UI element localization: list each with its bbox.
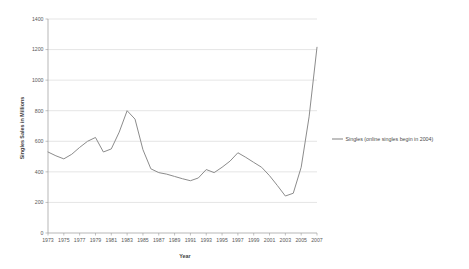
x-tick-label-1975: 1975 bbox=[58, 237, 70, 243]
x-tick-label-1999: 1999 bbox=[248, 237, 260, 243]
x-tick-label-1991: 1991 bbox=[185, 237, 197, 243]
x-axis-title: Year bbox=[179, 253, 191, 259]
legend-label-0: Singles (online singles begin in 2004) bbox=[346, 136, 434, 142]
x-tick-label-2005: 2005 bbox=[295, 237, 307, 243]
x-tick-label-2001: 2001 bbox=[264, 237, 276, 243]
gridlines-group bbox=[48, 19, 317, 202]
y-tick-label-0: 0 bbox=[41, 230, 44, 236]
line-chart: 0200400600800100012001400 19731975197719… bbox=[0, 0, 469, 269]
x-tick-label-1983: 1983 bbox=[121, 237, 133, 243]
legend: Singles (online singles begin in 2004) bbox=[332, 136, 433, 142]
y-tick-label-1000: 1000 bbox=[32, 77, 44, 83]
y-tick-label-1200: 1200 bbox=[32, 46, 44, 52]
y-tick-label-400: 400 bbox=[35, 169, 44, 175]
x-tick-label-1985: 1985 bbox=[137, 237, 149, 243]
x-tick-label-1987: 1987 bbox=[153, 237, 165, 243]
y-axis-title: Singles Sales in Millions bbox=[19, 97, 25, 160]
y-tick-label-200: 200 bbox=[35, 199, 44, 205]
chart-container: 0200400600800100012001400 19731975197719… bbox=[0, 0, 469, 269]
x-axis-ticks-group: 1973197519771979198119831985198719891991… bbox=[42, 233, 323, 243]
data-series-group bbox=[48, 47, 317, 196]
x-tick-label-1979: 1979 bbox=[90, 237, 102, 243]
x-tick-label-1989: 1989 bbox=[169, 237, 181, 243]
x-tick-label-1973: 1973 bbox=[42, 237, 54, 243]
x-tick-label-1995: 1995 bbox=[216, 237, 228, 243]
x-tick-label-2003: 2003 bbox=[280, 237, 292, 243]
x-tick-label-1977: 1977 bbox=[74, 237, 86, 243]
series-line-0 bbox=[48, 47, 317, 196]
y-tick-label-800: 800 bbox=[35, 108, 44, 114]
x-tick-label-1997: 1997 bbox=[232, 237, 244, 243]
x-tick-label-1993: 1993 bbox=[200, 237, 212, 243]
y-tick-label-1400: 1400 bbox=[32, 16, 44, 22]
x-tick-label-1981: 1981 bbox=[106, 237, 118, 243]
y-tick-label-600: 600 bbox=[35, 138, 44, 144]
x-tick-label-2007: 2007 bbox=[311, 237, 323, 243]
y-axis-ticks-group: 0200400600800100012001400 bbox=[32, 16, 48, 236]
